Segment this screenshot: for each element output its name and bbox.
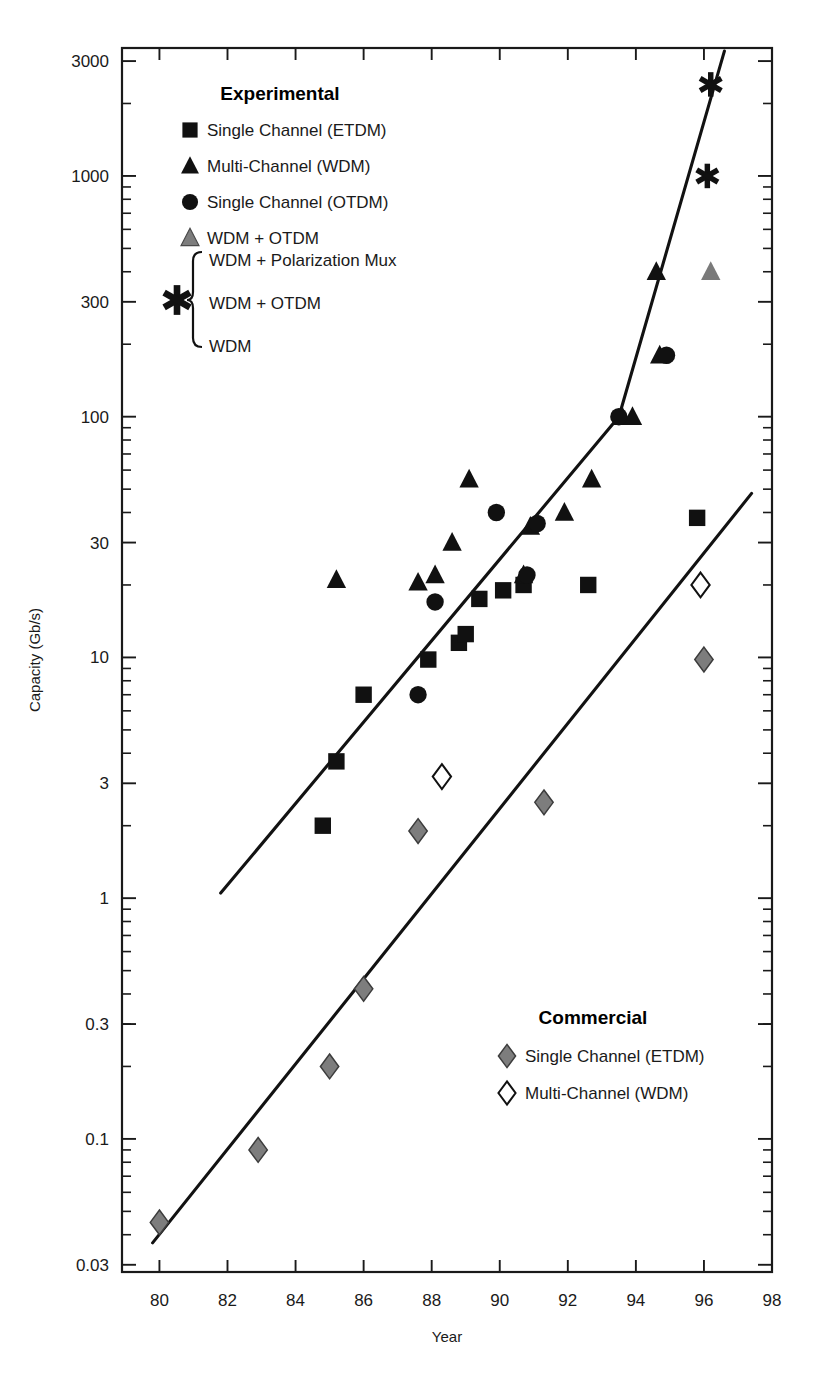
x-tick-label: 90 — [490, 1291, 509, 1310]
data-point — [535, 790, 553, 815]
data-point — [328, 753, 344, 769]
data-point — [580, 577, 596, 593]
x-tick-label: 92 — [558, 1291, 577, 1310]
legend-item-label: Single Channel (OTDM) — [207, 193, 388, 212]
legend-item-label: Single Channel (ETDM) — [525, 1047, 705, 1066]
x-tick-label: 94 — [626, 1291, 645, 1310]
data-point — [658, 347, 675, 364]
data-point — [433, 764, 451, 789]
x-tick-label: 96 — [694, 1291, 713, 1310]
data-point — [315, 817, 331, 833]
y-axis-title: Capacity (Gb/s) — [26, 608, 43, 712]
y-tick-label: 300 — [81, 293, 109, 312]
y-tick-label: 1000 — [71, 167, 109, 186]
legend-brace — [187, 252, 202, 347]
legend-experimental-title: Experimental — [220, 83, 339, 104]
x-tick-label: 98 — [763, 1291, 782, 1310]
data-point — [409, 686, 426, 703]
legend-commercial: CommercialSingle Channel (ETDM)Multi-Cha… — [498, 1007, 704, 1105]
data-point — [354, 976, 372, 1001]
data-point — [488, 504, 505, 521]
data-point — [409, 819, 427, 844]
legend-star-line: WDM — [209, 337, 251, 356]
y-tick-label: 0.03 — [76, 1256, 109, 1275]
capacity-vs-year-chart: 80828486889092949698 0.030.10.3131030100… — [0, 0, 826, 1375]
legend-commercial-title: Commercial — [539, 1007, 648, 1028]
data-point — [555, 502, 574, 521]
data-point — [610, 408, 627, 425]
x-tick-label: 80 — [150, 1291, 169, 1310]
y-tick-label: 0.3 — [85, 1015, 109, 1034]
data-point — [701, 261, 720, 280]
legend-marker-square — [182, 122, 197, 137]
legend-marker-circle — [182, 194, 198, 210]
data-point — [320, 1054, 338, 1079]
data-point — [697, 164, 718, 189]
data-point — [695, 647, 713, 672]
data-point — [458, 626, 474, 642]
legend-marker-triangle-gray — [181, 228, 199, 245]
legend-experimental: ExperimentalSingle Channel (ETDM)Multi-C… — [164, 83, 397, 356]
y-tick-label: 10 — [90, 648, 109, 667]
data-point — [425, 564, 444, 583]
legend-marker-triangle — [181, 156, 199, 173]
legend-item-label: Multi-Channel (WDM) — [525, 1084, 688, 1103]
data-point — [518, 566, 535, 583]
series-experimental-square — [315, 510, 706, 834]
experimental-trend — [221, 51, 725, 893]
data-point — [249, 1138, 267, 1163]
legend-item-label: Multi-Channel (WDM) — [207, 157, 370, 176]
data-point — [689, 510, 705, 526]
x-tick-label: 84 — [286, 1291, 305, 1310]
series-experimental-triangle — [701, 261, 720, 280]
x-tick-label: 86 — [354, 1291, 373, 1310]
legend-item-label: WDM + OTDM — [207, 229, 319, 248]
data-point — [355, 687, 371, 703]
data-point — [327, 569, 346, 588]
data-point — [471, 591, 487, 607]
legend-marker-star — [164, 285, 190, 315]
data-point — [582, 469, 601, 488]
y-tick-label: 3000 — [71, 52, 109, 71]
legend-marker-diamond-gray — [498, 1044, 515, 1067]
y-tick-label: 30 — [90, 534, 109, 553]
data-point — [426, 593, 443, 610]
data-point — [459, 469, 478, 488]
series-experimental-triangle — [327, 261, 670, 590]
legend-item-label: Single Channel (ETDM) — [207, 121, 387, 140]
data-point — [495, 582, 511, 598]
series-experimental-circle — [409, 347, 675, 704]
data-point — [420, 651, 436, 667]
data-point — [442, 532, 461, 551]
data-point — [408, 572, 427, 591]
x-tick-label: 82 — [218, 1291, 237, 1310]
data-point — [528, 515, 545, 532]
x-axis-title: Year — [432, 1328, 462, 1345]
legend-star-line: WDM + Polarization Mux — [209, 251, 397, 270]
data-point — [150, 1210, 168, 1235]
y-tick-label: 3 — [100, 774, 109, 793]
x-tick-label: 88 — [422, 1291, 441, 1310]
data-point — [691, 573, 709, 598]
y-tick-label: 0.1 — [85, 1130, 109, 1149]
series-commercial-diamond — [150, 647, 713, 1235]
figure-root: 80828486889092949698 0.030.10.3131030100… — [0, 0, 826, 1375]
legend-marker-diamond-open — [498, 1081, 515, 1104]
y-tick-label: 1 — [100, 889, 109, 908]
y-tick-label: 100 — [81, 408, 109, 427]
legend-star-line: WDM + OTDM — [209, 294, 321, 313]
